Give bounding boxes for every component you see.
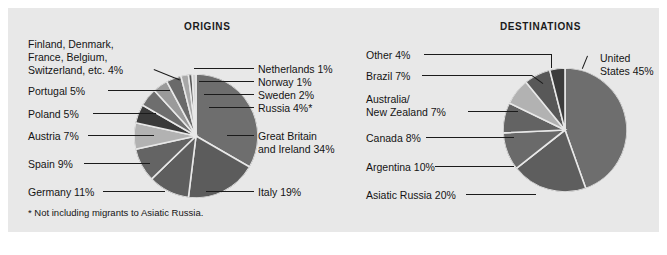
origins-label-netherlands: Netherlands 1% <box>258 63 333 76</box>
origins-leader-russia <box>209 107 254 108</box>
destinations-leader-united-states <box>582 56 588 69</box>
origins-label-finland-line1: Finland, Denmark, <box>28 38 114 51</box>
destinations-label-asiatic-russia: Asiatic Russia 20% <box>366 189 456 202</box>
origins-footnote: * Not including migrants to Asiatic Russ… <box>28 207 203 218</box>
destinations-label-argentina: Argentina 10% <box>366 161 435 174</box>
origins-leader-poland <box>93 113 156 114</box>
destinations-label-brazil: Brazil 7% <box>366 70 410 83</box>
origins-leader-germany <box>103 191 165 192</box>
destinations-leader-other <box>424 54 551 55</box>
origins-leader-great-britain <box>227 135 254 136</box>
origins-label-portugal: Portugal 5% <box>28 85 85 98</box>
origins-label-great-britain-line1: Great Britain <box>258 130 317 143</box>
destinations-pie-chart <box>503 68 627 192</box>
destinations-leader-brazil <box>422 75 532 76</box>
origins-leader-portugal <box>108 90 170 91</box>
destinations-label-other: Other 4% <box>366 49 410 62</box>
destinations-leader-australia <box>468 111 518 112</box>
origins-label-spain: Spain 9% <box>28 158 73 171</box>
origins-leader-norway <box>199 81 254 82</box>
destinations-leader-canada <box>426 137 514 138</box>
origins-label-italy: Italy 19% <box>258 186 301 199</box>
origins-label-great-britain-line2: and Ireland 34% <box>258 143 334 156</box>
destinations-label-united-states-line1: United <box>600 52 630 65</box>
origins-label-finland-line2: France, Belgium, <box>28 51 107 64</box>
destinations-leader-argentina <box>435 166 514 167</box>
destinations-label-australia-line1: Australia/ <box>366 93 410 106</box>
origins-label-sweden: Sweden 2% <box>258 89 314 102</box>
origins-title: ORIGINS <box>184 21 230 32</box>
destinations-label-australia-line2: New Zealand 7% <box>366 106 446 119</box>
figure-panel: ORIGINS Finland, Denmark, France, Belgiu… <box>8 8 659 232</box>
origins-label-poland: Poland 5% <box>28 108 79 121</box>
destinations-chart-panel: DESTINATIONS Other 4% Brazil 7% Australi… <box>348 8 659 232</box>
origins-label-austria: Austria 7% <box>28 130 79 143</box>
destinations-leader-other-drop <box>551 54 552 68</box>
origins-leader-finland <box>154 69 180 80</box>
origins-leader-netherlands <box>194 68 254 69</box>
destinations-leader-asiatic-russia <box>466 194 536 195</box>
destinations-label-united-states-line2: States 45% <box>600 65 654 78</box>
origins-label-finland-line3: Switzerland, etc. 4% <box>28 64 123 77</box>
origins-label-norway: Norway 1% <box>258 76 312 89</box>
origins-pie-chart <box>134 74 258 198</box>
origins-leader-spain <box>84 163 150 164</box>
origins-label-russia: Russia 4%* <box>258 102 312 115</box>
origins-label-germany: Germany 11% <box>28 186 94 199</box>
origins-chart-panel: ORIGINS Finland, Denmark, France, Belgiu… <box>8 8 348 232</box>
origins-leader-sweden <box>204 94 254 95</box>
destinations-title: DESTINATIONS <box>500 21 581 32</box>
origins-leader-italy <box>206 191 254 192</box>
origins-leader-austria <box>88 135 154 136</box>
destinations-label-canada: Canada 8% <box>366 132 421 145</box>
